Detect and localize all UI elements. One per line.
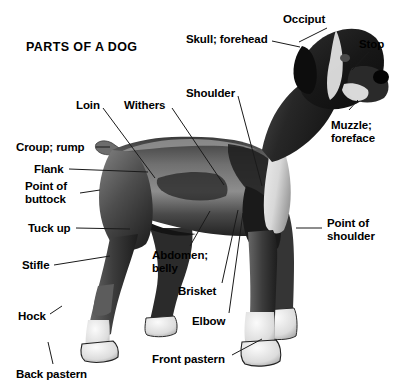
label-occiput: Occiput — [283, 13, 325, 26]
label-muzzle-foreface: Muzzle;foreface — [331, 119, 375, 144]
label-brisket: Brisket — [178, 285, 216, 298]
label-point-of-buttock-line: buttock — [25, 193, 67, 206]
label-muzzle-foreface-line: Muzzle; — [331, 119, 375, 132]
label-hock-line: Hock — [18, 310, 46, 323]
label-point-of-buttock-line: Point of — [25, 180, 67, 193]
label-stifle: Stifle — [22, 259, 50, 272]
label-back-pastern-line: Back pastern — [16, 368, 87, 381]
label-front-pastern-line: Front pastern — [152, 353, 225, 366]
dog-hind-paw-near — [81, 341, 118, 362]
label-point-of-shoulder: Point ofshoulder — [327, 217, 375, 242]
label-loin: Loin — [76, 99, 100, 112]
label-skull-forehead: Skull; forehead — [186, 33, 268, 46]
label-croup-rump-line: Croup; rump — [16, 141, 85, 154]
dog-eye — [340, 54, 350, 62]
label-front-pastern: Front pastern — [152, 353, 225, 366]
label-point-of-shoulder-line: shoulder — [327, 230, 375, 243]
label-point-of-shoulder-line: Point of — [327, 217, 375, 230]
label-loin-line: Loin — [76, 99, 100, 112]
label-stop-line: Stop — [359, 38, 384, 51]
label-flank-line: Flank — [34, 163, 64, 176]
label-shoulder-line: Shoulder — [186, 87, 235, 100]
dog-anatomy-diagram: PARTS OF A DOG OcciputSkull; foreheadSto… — [0, 0, 400, 387]
label-abdomen-belly: Abdomen;belly — [152, 249, 208, 274]
dog-hind-paw-far — [145, 316, 177, 337]
label-elbow-line: Elbow — [192, 315, 225, 328]
label-tuck-up-line: Tuck up — [28, 222, 71, 235]
label-abdomen-belly-line: belly — [152, 262, 208, 275]
label-abdomen-belly-line: Abdomen; — [152, 249, 208, 262]
label-elbow: Elbow — [192, 315, 225, 328]
label-stop: Stop — [359, 38, 384, 51]
dog-nose — [373, 70, 389, 84]
label-occiput-line: Occiput — [283, 13, 325, 26]
label-withers: Withers — [124, 99, 165, 112]
label-brisket-line: Brisket — [178, 285, 216, 298]
label-back-pastern: Back pastern — [16, 368, 87, 381]
label-point-of-buttock: Point ofbuttock — [25, 180, 67, 205]
label-muzzle-foreface-line: foreface — [331, 132, 375, 145]
label-croup-rump: Croup; rump — [16, 141, 85, 154]
label-shoulder: Shoulder — [186, 87, 235, 100]
label-stifle-line: Stifle — [22, 259, 50, 272]
label-hock: Hock — [18, 310, 46, 323]
label-flank: Flank — [34, 163, 64, 176]
dog-front-paw-near — [241, 340, 281, 366]
label-tuck-up: Tuck up — [28, 222, 71, 235]
label-withers-line: Withers — [124, 99, 165, 112]
label-skull-forehead-line: Skull; forehead — [186, 33, 268, 46]
page-title: PARTS OF A DOG — [26, 40, 137, 54]
